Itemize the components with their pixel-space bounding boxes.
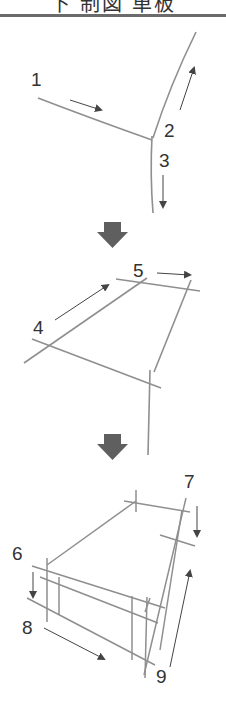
direction-arrows-3 bbox=[33, 506, 197, 667]
step-label-7: 7 bbox=[184, 471, 195, 492]
step-label-3: 3 bbox=[159, 150, 170, 171]
step-label-6: 6 bbox=[12, 543, 23, 564]
down-arrow-icon bbox=[97, 434, 128, 460]
direction-arrows-1 bbox=[70, 68, 194, 207]
step-label-8: 8 bbox=[22, 617, 33, 638]
step-drawing-2 bbox=[24, 278, 200, 455]
step-label-2: 2 bbox=[164, 120, 175, 141]
step-label-9: 9 bbox=[156, 666, 167, 687]
sketch-canvas: 1 2 3 4 5 7 6 8 bbox=[0, 0, 226, 701]
step-label-5: 5 bbox=[133, 260, 144, 281]
step-drawing-3 bbox=[27, 490, 195, 678]
step-label-1: 1 bbox=[31, 69, 42, 90]
down-arrow-icon bbox=[97, 222, 128, 248]
step-label-4: 4 bbox=[33, 317, 44, 338]
